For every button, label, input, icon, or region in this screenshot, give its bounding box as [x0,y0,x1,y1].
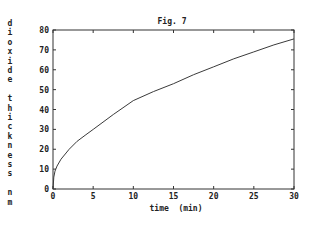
y-tick-label: 10 [39,165,49,174]
x-tick-label: 20 [209,192,219,201]
x-tick-label: 15 [169,192,179,201]
chart-title: Fig. 7 [158,16,187,26]
x-tick-label: 0 [51,192,56,201]
y-axis-label-letter: s [6,161,14,169]
x-tick-label: 10 [129,192,139,201]
y-axis-label-letter: e [6,152,14,160]
x-axis-label: time (min) [150,203,203,213]
y-axis-label-letter: i [6,114,14,122]
y-axis-label-letter: o [6,39,14,47]
y-axis-label-letter: n [6,142,14,150]
y-axis-label-letter: i [6,58,14,66]
x-axis: 051015202530 [51,30,299,201]
y-axis-label-letter: i [6,29,14,37]
data-line [53,39,294,189]
y-axis-label-letter: e [6,76,14,84]
y-axis-label-letter: t [6,95,14,103]
x-tick-label: 25 [249,192,259,201]
y-tick-label: 60 [39,66,49,75]
y-axis-label-letter: n [6,189,14,197]
y-axis-label-letter: x [6,48,14,56]
y-axis-label-letter: d [6,20,14,28]
y-axis-label-letter: d [6,67,14,75]
y-axis-label-letter: s [6,170,14,178]
y-axis-label-letter: m [6,199,14,207]
plot-area [53,30,294,189]
y-tick-label: 70 [39,46,49,55]
y-tick-label: 0 [44,185,49,194]
x-tick-label: 5 [91,192,96,201]
y-tick-label: 50 [39,86,49,95]
line-chart: Fig. 7 01020304050607080 051015202530 ti… [0,0,316,226]
x-tick-label: 30 [289,192,299,201]
y-tick-label: 80 [39,26,49,35]
y-axis-label-letter: k [6,133,14,141]
y-axis-label-letter: c [6,123,14,131]
y-axis-label-letter: h [6,105,14,113]
y-tick-label: 40 [39,106,49,115]
y-tick-label: 20 [39,145,49,154]
y-tick-label: 30 [39,125,49,134]
